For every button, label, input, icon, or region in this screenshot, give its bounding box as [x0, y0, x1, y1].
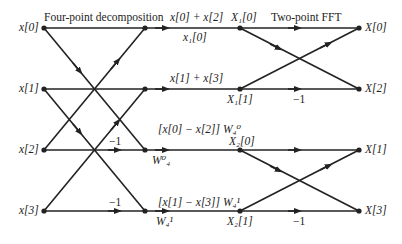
- X1-0-label: X₁[0]: [231, 12, 257, 24]
- gain-neg1-x2: −1: [109, 136, 121, 148]
- diff0-label: [x[0] − x[2]] W₄⁰: [158, 124, 241, 136]
- gain-neg1-X2: −1: [293, 94, 305, 106]
- output-X2: X[2]: [365, 83, 387, 95]
- input-x3: x[3]: [19, 205, 39, 217]
- X2-0-label: X₂[0]: [229, 136, 255, 148]
- stage1-title: Four-point decomposition: [44, 12, 164, 24]
- output-X1: X[1]: [365, 144, 387, 156]
- input-x2: x[2]: [19, 144, 39, 156]
- output-X0: X[0]: [365, 22, 387, 34]
- fft-butterfly-diagram: Four-point decomposition Two-point FFT x…: [0, 0, 402, 244]
- twiddle-w0-label: W⁰₄: [152, 155, 170, 167]
- input-x1: x[1]: [19, 83, 39, 95]
- stage2-title: Two-point FFT: [271, 12, 341, 24]
- gain-neg1-X3: −1: [293, 216, 305, 228]
- X1-1-label: X₁[1]: [227, 94, 253, 106]
- x1-0-label: x₁[0]: [183, 32, 207, 44]
- twiddle-w1-label: W₄¹: [156, 216, 173, 228]
- gain-neg1-x3: −1: [109, 197, 121, 209]
- sum1-label: x[1] + x[3]: [170, 73, 223, 85]
- diff1-label: [x[1] − x[3]] W₄¹: [158, 197, 240, 209]
- sum0-label: x[0] + x[2]: [170, 12, 223, 24]
- output-X3: X[3]: [365, 205, 387, 217]
- X2-1-label: X₂[1]: [227, 216, 253, 228]
- input-x0: x[0]: [19, 22, 39, 34]
